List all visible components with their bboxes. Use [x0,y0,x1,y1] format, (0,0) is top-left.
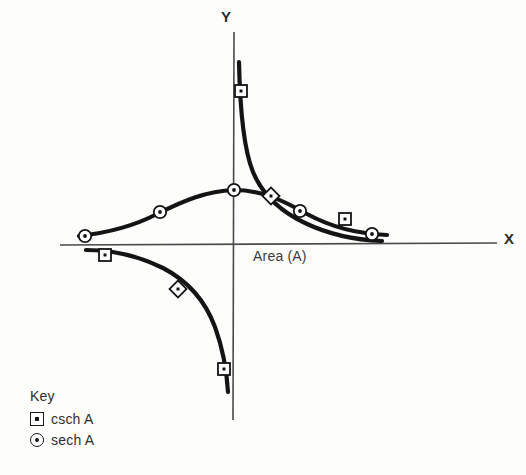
data-point-sech [366,228,378,240]
legend: Key csch A sech A [30,388,94,450]
marker-group-csch [99,85,351,375]
x-axis-label: X [504,230,514,247]
legend-item-label: csch A [51,411,93,427]
hyperbolic-function-figure: Y X Area (A) Key csch A sech A [0,0,526,475]
data-point-csch [99,249,111,261]
curve-csch-negative-branch [86,250,228,392]
x-axis-line [60,243,497,245]
data-point-csch [235,85,247,97]
data-point-sech [228,184,240,196]
square-dot-icon [30,412,44,426]
y-axis-label: Y [221,8,231,25]
legend-item-label: sech A [51,432,94,448]
data-point-sech [294,205,306,217]
legend-item-csch: csch A [30,409,94,429]
data-point-sech [79,230,91,242]
data-point-csch [218,363,230,375]
y-axis-line [233,32,234,420]
legend-item-sech: sech A [30,430,94,450]
data-point-sech [154,206,166,218]
legend-title: Key [30,388,94,404]
area-annotation-label: Area (A) [253,248,307,264]
data-point-csch [339,213,351,225]
circle-dot-icon [30,433,44,447]
